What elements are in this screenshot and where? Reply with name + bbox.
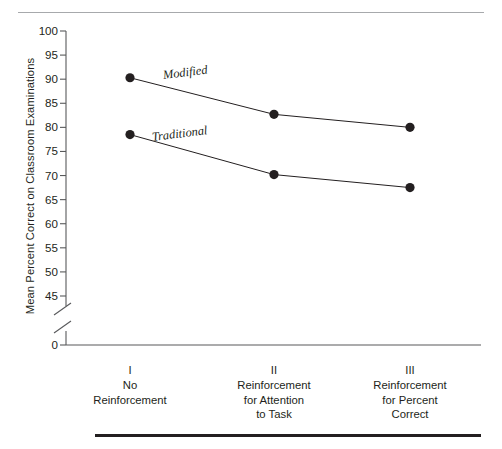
data-point-marker: Modified I: 90.3	[125, 73, 134, 82]
category-roman-numeral: I	[70, 363, 190, 377]
data-point-marker: Modified III: 80	[405, 123, 414, 132]
category-description-line: Reinforcement	[70, 393, 190, 407]
category-description-line: for Percent	[350, 393, 470, 407]
figure-container: Mean Percent Correct on Classroom Examin…	[0, 0, 502, 449]
axes-group	[54, 31, 481, 345]
x-axis-category-3: IIIReinforcementfor PercentCorrect	[350, 363, 470, 422]
category-description-line: No	[70, 378, 190, 392]
axis-break-slash-upper	[54, 303, 71, 315]
category-description-line: Correct	[350, 407, 470, 421]
category-description-line: for Attention	[214, 393, 334, 407]
data-point-marker: Traditional I: 78.5	[125, 130, 134, 139]
data-point-marker: Modified II: 82.7	[269, 110, 278, 119]
category-description-line: Reinforcement	[350, 378, 470, 392]
category-roman-numeral: II	[214, 363, 334, 377]
x-axis-category-1: INoReinforcement	[70, 363, 190, 407]
x-axis-category-2: IIReinforcementfor Attentionto Task	[214, 363, 334, 422]
bottom-rule-divider	[95, 434, 481, 437]
category-description-line: to Task	[214, 407, 334, 421]
series-line	[130, 78, 410, 128]
data-point-marker: Traditional III: 67.5	[405, 183, 414, 192]
data-point-marker: Traditional II: 70.2	[269, 170, 278, 179]
category-description-line: Reinforcement	[214, 378, 334, 392]
category-roman-numeral: III	[350, 363, 470, 377]
axis-break-slash-lower	[54, 321, 71, 333]
